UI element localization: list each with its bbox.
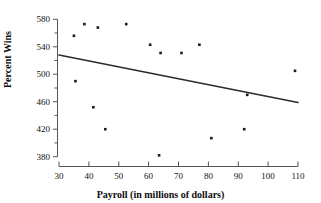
- data-point: [92, 106, 95, 109]
- scatter-plot-figure: 580 540 500 460 420 380 30 40 50 60 70 8…: [0, 0, 321, 203]
- y-tick-label-580: 580: [24, 14, 50, 24]
- x-tick-label-100: 100: [261, 171, 275, 181]
- x-tick-label-70: 70: [174, 171, 183, 181]
- data-point: [149, 43, 152, 46]
- data-point: [294, 70, 297, 73]
- data-point: [104, 128, 107, 131]
- x-tick-label-90: 90: [234, 171, 243, 181]
- data-point-group: [73, 23, 297, 157]
- y-tick-label-540: 540: [24, 42, 50, 52]
- x-tick-label-40: 40: [84, 171, 93, 181]
- y-tick-label-460: 460: [24, 97, 50, 107]
- y-tick-label-380: 380: [24, 152, 50, 162]
- y-tick-label-420: 420: [24, 124, 50, 134]
- axis-lines: [58, 19, 299, 166]
- data-point: [246, 94, 249, 97]
- x-tick-label-30: 30: [55, 171, 64, 181]
- y-axis-title: Percent Wins: [2, 31, 13, 88]
- data-point: [198, 43, 201, 46]
- data-point: [125, 23, 128, 26]
- x-tick-label-50: 50: [114, 171, 123, 181]
- data-point: [74, 80, 77, 83]
- x-tick-label-110: 110: [291, 171, 304, 181]
- regression-trend-line: [59, 55, 298, 102]
- data-point: [180, 52, 183, 55]
- y-axis-ticks: [53, 19, 58, 156]
- x-tick-label-80: 80: [204, 171, 213, 181]
- x-tick-label-60: 60: [144, 171, 153, 181]
- data-point: [158, 154, 161, 157]
- data-point: [243, 128, 246, 131]
- data-point: [83, 23, 86, 26]
- x-axis-ticks: [59, 162, 298, 167]
- x-axis-title: Payroll (in millions of dollars): [0, 189, 321, 200]
- data-point: [159, 52, 162, 55]
- data-point: [210, 137, 213, 140]
- y-tick-label-500: 500: [24, 69, 50, 79]
- data-point: [97, 26, 100, 29]
- data-point: [73, 34, 76, 37]
